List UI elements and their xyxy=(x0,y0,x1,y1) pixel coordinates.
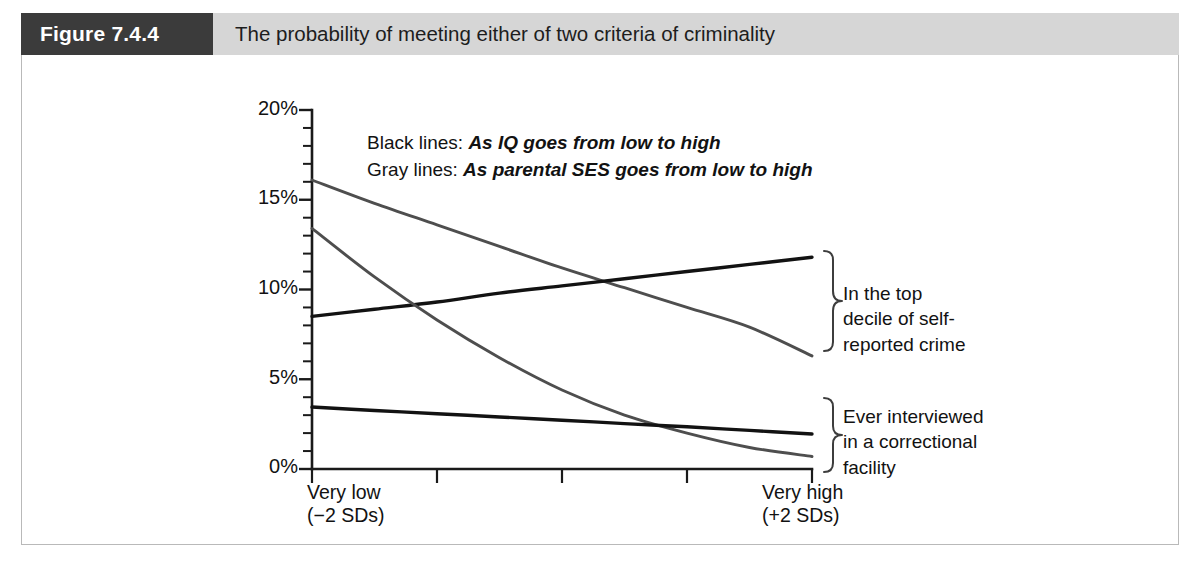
series-line-2 xyxy=(312,228,812,456)
chart-plot-area xyxy=(0,0,1197,566)
legend-item-black-lead: Black lines: xyxy=(367,132,463,153)
legend-item-black-desc: As IQ goes from low to high xyxy=(468,132,720,153)
x-axis-label-left: Very low (−2 SDs) xyxy=(307,481,384,527)
x-axis-label-right-line2: (+2 SDs) xyxy=(762,504,843,527)
x-axis-label-right: Very high (+2 SDs) xyxy=(762,481,843,527)
y-tick-label-0: 0% xyxy=(232,455,298,478)
series-line-0 xyxy=(312,180,812,356)
legend-item-gray: Gray lines: As parental SES goes from lo… xyxy=(367,157,813,184)
figure-container: Figure 7.4.4 The probability of meeting … xyxy=(0,0,1197,566)
series-group xyxy=(312,180,812,456)
brace-correctional xyxy=(824,398,842,472)
y-tick-label-20: 20% xyxy=(222,97,298,120)
annotation-top-decile-line1: In the top xyxy=(843,281,966,306)
annotation-correctional-line2: in a correctional xyxy=(843,429,983,454)
y-tick-label-5: 5% xyxy=(232,366,298,389)
legend-item-black: Black lines: As IQ goes from low to high xyxy=(367,130,813,157)
brace-top-decile xyxy=(824,251,842,351)
x-axis-label-right-line1: Very high xyxy=(762,481,843,504)
annotation-top-decile-line2: decile of self- xyxy=(843,306,966,331)
legend-item-gray-desc: As parental SES goes from low to high xyxy=(463,159,812,180)
annotation-top-decile: In the top decile of self- reported crim… xyxy=(843,281,966,357)
annotation-correctional-line1: Ever interviewed xyxy=(843,404,983,429)
y-tick-label-10: 10% xyxy=(222,276,298,299)
series-line-3 xyxy=(312,407,812,434)
legend-item-gray-lead: Gray lines: xyxy=(367,159,458,180)
annotation-top-decile-line3: reported crime xyxy=(843,332,966,357)
y-axis-ticks xyxy=(299,110,312,469)
y-tick-label-15: 15% xyxy=(222,186,298,209)
annotation-correctional: Ever interviewed in a correctional facil… xyxy=(843,404,983,480)
annotation-correctional-line3: facility xyxy=(843,455,983,480)
chart-legend: Black lines: As IQ goes from low to high… xyxy=(367,130,813,184)
x-axis-label-left-line1: Very low xyxy=(307,481,384,504)
x-axis-ticks xyxy=(312,469,812,483)
x-axis-label-left-line2: (−2 SDs) xyxy=(307,504,384,527)
